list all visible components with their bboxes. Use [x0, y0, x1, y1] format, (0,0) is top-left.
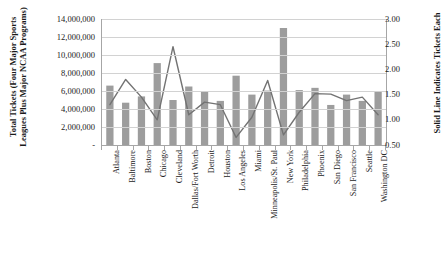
x-axis-tick [164, 146, 165, 150]
bar [106, 86, 113, 145]
x-axis-category-label: Detroit [207, 150, 216, 173]
x-axis-tick [338, 146, 339, 150]
bar [374, 92, 381, 145]
y-axis-left-tick: 4,000,000 [61, 104, 95, 115]
x-axis-tick [353, 146, 354, 150]
bar [169, 100, 176, 145]
bar [327, 105, 334, 145]
bar [185, 87, 192, 146]
y-axis-right-tick: 3.00 [385, 14, 400, 25]
x-axis-tick [117, 146, 118, 150]
bar [201, 91, 208, 145]
x-axis-category-label: Atlanta [112, 150, 121, 174]
line-series [110, 47, 378, 138]
x-axis-tick [290, 146, 291, 150]
x-axis-tick [101, 146, 102, 150]
x-axis-category-label: Houston [223, 150, 232, 178]
bar [359, 101, 366, 145]
x-axis-tick [180, 146, 181, 150]
y-axis-right-tick: 1.00 [385, 114, 400, 125]
y-axis-left-tick: 6,000,000 [61, 86, 95, 97]
x-axis-tick [322, 146, 323, 150]
x-axis-tick [243, 146, 244, 150]
gridline [102, 127, 386, 128]
gridline [102, 91, 386, 92]
x-axis-category-label: Chicago [159, 150, 168, 177]
x-axis-tick [275, 146, 276, 150]
bar [217, 101, 224, 145]
x-axis-category-label: Miami [254, 150, 263, 172]
bar [343, 95, 350, 145]
gridline [102, 55, 386, 56]
x-axis-tick [385, 146, 386, 150]
x-axis-category-labels: AtlantaBaltimoreBostonChicagoClevelandDa… [101, 150, 385, 250]
x-axis-tick [148, 146, 149, 150]
y-axis-right-tick: 2.00 [385, 64, 400, 75]
y-axis-left-tick: 2,000,000 [61, 122, 95, 133]
x-axis-category-label: New York [286, 150, 295, 183]
y-axis-left-tick: 14,000,000 [57, 14, 95, 25]
gridline [102, 109, 386, 110]
y-axis-right-tick: 2.50 [385, 39, 400, 50]
bar [138, 96, 145, 145]
x-axis-category-label: Phoenix [317, 150, 326, 177]
x-axis-category-label: San Francisco [349, 150, 358, 196]
x-axis-category-label: Cleveland [175, 150, 184, 183]
x-axis-category-label: Los Angeles [238, 150, 247, 191]
x-axis-tick [133, 146, 134, 150]
x-axis-category-label: Seattle [365, 150, 374, 172]
x-axis-tick [196, 146, 197, 150]
x-axis-tick [306, 146, 307, 150]
x-axis-category-label: Philadelphia [301, 150, 310, 191]
x-axis-tick [211, 146, 212, 150]
x-axis-tick [227, 146, 228, 150]
x-axis-tick [369, 146, 370, 150]
gridline [102, 19, 386, 20]
x-axis-category-label: San Diego [333, 150, 342, 184]
y-axis-left-title: Total Tickets (Four Major Sports Leagues… [8, 2, 28, 152]
bar [296, 90, 303, 145]
y-axis-right-title: Solid Line Indicates Tickets Each [432, 0, 442, 148]
x-axis-category-label: Baltimore [128, 150, 137, 183]
chart-container: Total Tickets (Four Major Sports Leagues… [0, 0, 445, 264]
y-axis-left-tick: 12,000,000 [57, 32, 95, 43]
bar [264, 91, 271, 145]
x-axis-category-label: Washington DC [380, 150, 389, 202]
x-axis-category-label: Boston [144, 150, 153, 173]
gridline [102, 73, 386, 74]
y-axis-left-tick: - [92, 140, 95, 151]
x-axis-category-label: Minneapolis/St. Paul [270, 150, 279, 219]
bar [154, 63, 161, 145]
gridline [102, 37, 386, 38]
x-axis-category-label: Dallas/Fort Worth [191, 150, 200, 209]
y-axis-right-tick: 0.50 [385, 140, 400, 151]
x-axis-tick [259, 146, 260, 150]
y-axis-right-tick: 1.50 [385, 89, 400, 100]
y-axis-left-tick: 8,000,000 [61, 68, 95, 79]
y-axis-left-tick: 10,000,000 [57, 50, 95, 61]
plot-area [101, 19, 387, 146]
